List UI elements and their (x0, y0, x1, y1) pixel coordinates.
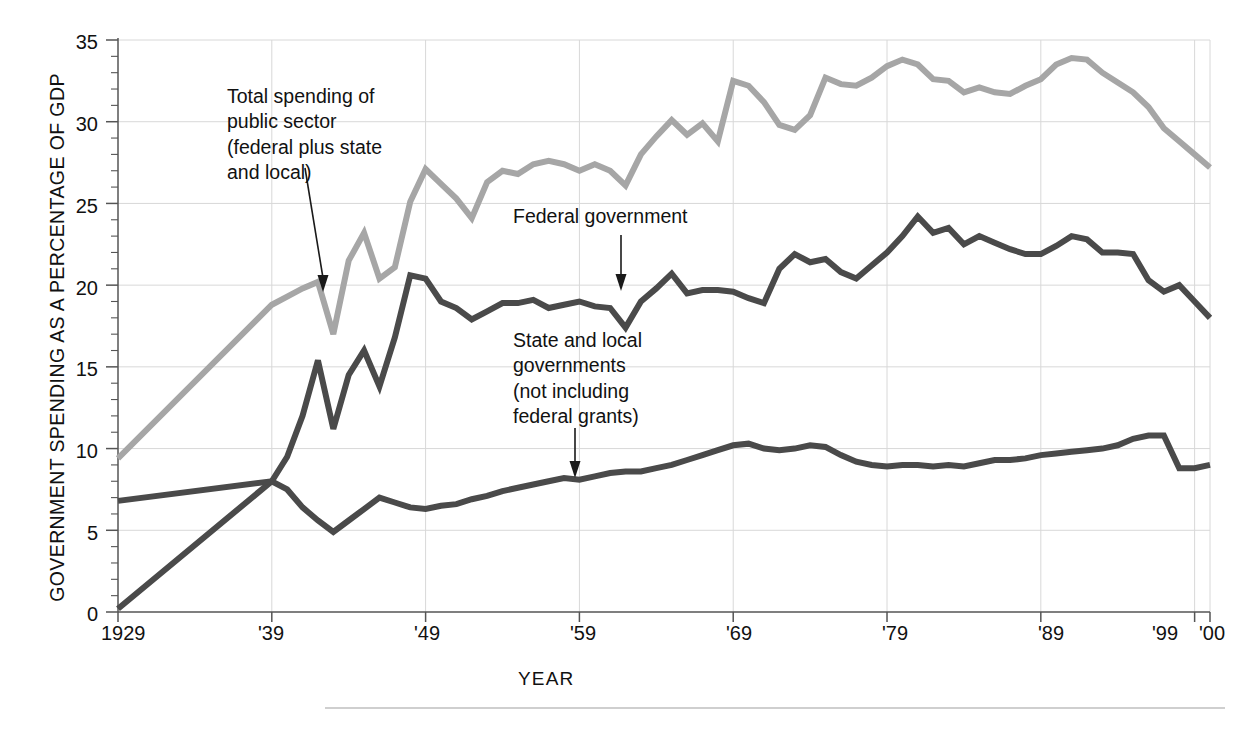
x-tick-label-1999: '99 (1152, 622, 1178, 645)
series-line-2 (118, 436, 1210, 532)
x-tick-label-1989: '89 (1038, 622, 1064, 645)
y-tick-label-35: 35 (58, 31, 98, 54)
y-tick-label-5: 5 (58, 522, 98, 545)
arrow-total-spending (305, 168, 329, 292)
series-line-1 (118, 217, 1210, 609)
y-tick-label-10: 10 (58, 440, 98, 463)
x-tick-label-1959: '59 (570, 622, 596, 645)
x-tick-label-2000: '00 (1199, 622, 1225, 645)
x-tick-label-1929: 1929 (101, 622, 146, 645)
x-tick-label-1939: '39 (258, 622, 284, 645)
x-tick-label-1949: '49 (414, 622, 440, 645)
x-axis-title: YEAR (518, 668, 575, 690)
arrow-federal-government (616, 235, 627, 291)
footer-rule (325, 707, 1225, 709)
annotation-federal-government: Federal government (513, 204, 688, 229)
y-tick-label-20: 20 (58, 277, 98, 300)
annotation-state-local: State and local governments (not includi… (513, 328, 642, 429)
annotation-total-spending: Total spending of public sector (federal… (227, 84, 382, 185)
y-tick-label-30: 30 (58, 113, 98, 136)
x-tick-label-1969: '69 (726, 622, 752, 645)
x-tick-label-1979: '79 (882, 622, 908, 645)
y-tick-label-25: 25 (58, 195, 98, 218)
chart-figure: GOVERNMENT SPENDING AS A PERCENTAGE OF G… (0, 0, 1248, 736)
y-tick-label-15: 15 (58, 358, 98, 381)
y-tick-label-0: 0 (58, 603, 98, 626)
arrow-state-local (570, 428, 581, 478)
